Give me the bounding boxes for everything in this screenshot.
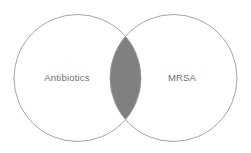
set-label-left: Antibiotics: [44, 72, 90, 83]
venn-diagram: Antibiotics MRSA: [0, 0, 251, 153]
venn-diagram-canvas: Antibiotics MRSA: [0, 0, 251, 153]
set-label-right: MRSA: [168, 72, 197, 83]
